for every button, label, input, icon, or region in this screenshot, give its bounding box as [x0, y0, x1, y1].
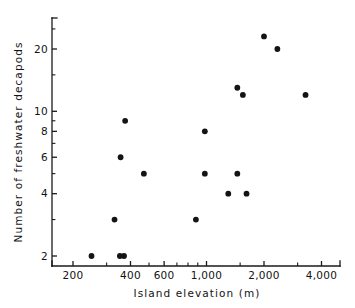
y-axis-group: 24681020 — [34, 18, 57, 266]
data-point — [234, 171, 240, 177]
data-point — [274, 46, 280, 52]
x-tick-label-2000: 2,000 — [248, 269, 280, 281]
data-point — [122, 118, 128, 124]
data-point — [121, 253, 127, 259]
x-tick-label-4000: 4,000 — [306, 269, 338, 281]
y-axis-title: Number of freshwater decapods — [12, 41, 24, 242]
x-axis-title: Island elevation (m) — [134, 287, 261, 299]
x-tick-label-400: 400 — [120, 269, 141, 281]
y-tick-label-6: 6 — [41, 151, 48, 163]
data-point — [202, 128, 208, 134]
y-tick-label-4: 4 — [41, 187, 48, 199]
y-tick-label-8: 8 — [41, 125, 48, 137]
data-points-group — [89, 34, 309, 259]
data-point — [234, 85, 240, 91]
data-point — [261, 34, 267, 40]
data-point — [303, 92, 309, 98]
data-point — [240, 92, 246, 98]
data-point — [118, 154, 124, 160]
y-tick-label-10: 10 — [34, 105, 48, 117]
scatter-plot-figure: 24681020 2004006001,0002,0004,000 Island… — [0, 0, 355, 308]
x-tick-label-200: 200 — [63, 269, 84, 281]
data-point — [112, 217, 118, 223]
data-point — [193, 217, 199, 223]
plot-canvas: 24681020 2004006001,0002,0004,000 Island… — [0, 0, 355, 308]
data-point — [244, 191, 250, 197]
x-axis-group: 2004006001,0002,0004,000 — [52, 261, 340, 281]
data-point — [89, 253, 95, 259]
data-point — [202, 171, 208, 177]
data-point — [225, 191, 231, 197]
y-tick-label-2: 2 — [41, 250, 48, 262]
data-point — [141, 171, 147, 177]
x-tick-label-600: 600 — [154, 269, 175, 281]
y-tick-label-20: 20 — [34, 43, 48, 55]
x-tick-label-1000: 1,000 — [191, 269, 223, 281]
